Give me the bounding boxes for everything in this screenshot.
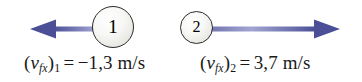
velocity-symbol: v <box>206 52 215 73</box>
equals-sign: = <box>240 52 251 73</box>
particle-1-circle: 1 <box>92 6 134 48</box>
velocity-value: 3,7 <box>254 52 278 73</box>
velocity-index-subscript: 1 <box>54 62 60 75</box>
equals-sign: = <box>64 52 75 73</box>
velocity-vector-diagram: 1 2 (vfx)1=−1,3 m/s (vfx)2=3,7 m/s <box>0 0 362 82</box>
arrow-right-icon <box>208 20 340 39</box>
velocity-symbol-subscript: fx <box>215 62 224 75</box>
particle-2-label: 2 <box>193 19 201 35</box>
particle-2-circle: 2 <box>180 11 213 44</box>
velocity-symbol-subscript: fx <box>39 62 48 75</box>
velocity-symbol: v <box>30 52 39 73</box>
particle-1-velocity-label: (vfx)1=−1,3 m/s <box>24 52 145 76</box>
velocity-unit: m/s <box>117 52 145 73</box>
particle-1-label: 1 <box>108 17 118 36</box>
velocity-unit: m/s <box>283 52 311 73</box>
particle-2-velocity-label: (vfx)2=3,7 m/s <box>200 52 310 76</box>
velocity-value: −1,3 <box>78 52 113 73</box>
arrow-left-icon <box>30 20 96 39</box>
velocity-index-subscript: 2 <box>230 62 236 75</box>
